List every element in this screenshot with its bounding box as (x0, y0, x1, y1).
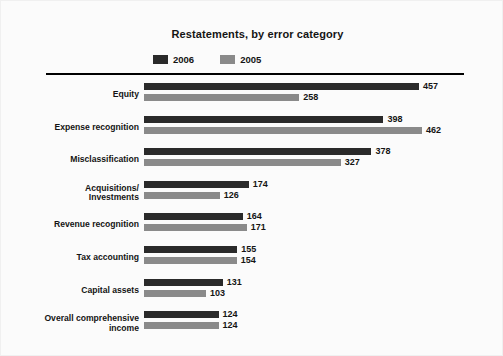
bar-pair: 174126 (144, 181, 268, 203)
chart-group: Capital assets131103 (1, 279, 503, 303)
bar-2006[interactable] (144, 246, 237, 253)
legend-label-2005: 2005 (240, 55, 261, 64)
bar-row[interactable]: 154 (144, 257, 256, 264)
bar-2006[interactable] (144, 83, 419, 90)
legend-label-2006: 2006 (173, 55, 194, 64)
legend-swatch-2005 (220, 55, 235, 64)
chart-page: Restatements, by error category 2006 200… (0, 0, 503, 356)
bar-row[interactable]: 126 (144, 192, 268, 199)
bar-row[interactable]: 124 (144, 322, 238, 329)
chart-group: Equity457258 (1, 83, 503, 107)
category-label: Capital assets (9, 286, 139, 296)
chart-group: Tax accounting155154 (1, 246, 503, 270)
chart-legend: 2006 2005 (153, 55, 261, 64)
bar-value-label: 124 (223, 321, 238, 330)
bar-2006[interactable] (144, 279, 223, 286)
bar-pair: 378327 (144, 148, 390, 170)
legend-entry-2005: 2005 (220, 55, 261, 64)
bar-value-label: 462 (426, 126, 441, 135)
bar-row[interactable]: 327 (144, 159, 390, 166)
bar-pair: 124124 (144, 311, 238, 333)
bar-value-label: 457 (423, 82, 438, 91)
category-label: Overall comprehensiveincome (9, 314, 139, 333)
bar-value-label: 258 (303, 93, 318, 102)
bar-row[interactable]: 155 (144, 246, 256, 253)
bar-value-label: 154 (241, 256, 256, 265)
bar-value-label: 131 (227, 278, 242, 287)
bar-row[interactable]: 258 (144, 94, 438, 101)
chart-title: Restatements, by error category (1, 28, 503, 40)
bar-2006[interactable] (144, 181, 249, 188)
bar-value-label: 155 (241, 245, 256, 254)
bar-row[interactable]: 174 (144, 181, 268, 188)
bar-2005[interactable] (144, 192, 220, 199)
bar-2005[interactable] (144, 127, 422, 134)
bar-row[interactable]: 378 (144, 148, 390, 155)
axis-rule (46, 73, 464, 75)
bar-value-label: 171 (251, 223, 266, 232)
bar-row[interactable]: 164 (144, 213, 266, 220)
bar-2005[interactable] (144, 290, 206, 297)
bar-value-label: 398 (387, 115, 402, 124)
bar-row[interactable]: 171 (144, 224, 266, 231)
bar-2006[interactable] (144, 311, 219, 318)
bar-value-label: 327 (345, 158, 360, 167)
bar-row[interactable]: 131 (144, 279, 242, 286)
bar-2006[interactable] (144, 213, 243, 220)
legend-entry-2006: 2006 (153, 55, 194, 64)
chart-group: Acquisitions/Investments174126 (1, 181, 503, 205)
bar-row[interactable]: 462 (144, 127, 441, 134)
chart-group: Overall comprehensiveincome124124 (1, 311, 503, 335)
bar-2006[interactable] (144, 116, 383, 123)
category-label: Revenue recognition (9, 221, 139, 231)
chart-group: Revenue recognition164171 (1, 213, 503, 237)
chart-group: Expense recognition398462 (1, 116, 503, 140)
category-label: Tax accounting (9, 253, 139, 263)
bar-value-label: 378 (375, 147, 390, 156)
bar-row[interactable]: 457 (144, 83, 438, 90)
bar-value-label: 103 (210, 289, 225, 298)
category-label: Equity (9, 90, 139, 100)
bar-value-label: 124 (223, 310, 238, 319)
bar-value-label: 126 (224, 191, 239, 200)
bar-row[interactable]: 124 (144, 311, 238, 318)
bar-value-label: 164 (247, 212, 262, 221)
bar-2005[interactable] (144, 224, 247, 231)
chart-plot-area: Equity457258Expense recognition398462Mis… (1, 81, 503, 349)
bar-row[interactable]: 398 (144, 116, 441, 123)
bar-pair: 155154 (144, 246, 256, 268)
category-label: Expense recognition (9, 123, 139, 133)
bar-pair: 398462 (144, 116, 441, 138)
bar-row[interactable]: 103 (144, 290, 242, 297)
bar-2005[interactable] (144, 257, 237, 264)
bar-2005[interactable] (144, 94, 299, 101)
bar-2005[interactable] (144, 322, 219, 329)
bar-value-label: 174 (253, 180, 268, 189)
bar-2006[interactable] (144, 148, 371, 155)
bar-2005[interactable] (144, 159, 341, 166)
category-label: Misclassification (9, 155, 139, 165)
bar-pair: 131103 (144, 279, 242, 301)
bar-pair: 164171 (144, 213, 266, 235)
chart-group: Misclassification378327 (1, 148, 503, 172)
category-label: Acquisitions/Investments (9, 183, 139, 202)
legend-swatch-2006 (153, 55, 168, 64)
bar-pair: 457258 (144, 83, 438, 105)
